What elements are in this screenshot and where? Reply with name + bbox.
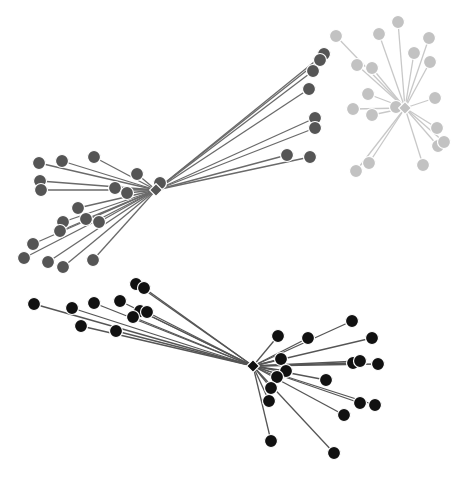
black-cluster-leaf-node[interactable] (263, 395, 276, 408)
light-gray-cluster-leaf-node[interactable] (417, 159, 430, 172)
light-gray-cluster-leaf-node[interactable] (330, 30, 343, 43)
dark-gray-cluster-leaf-node[interactable] (88, 151, 101, 164)
black-cluster-leaf-node[interactable] (369, 399, 382, 412)
dark-gray-cluster-leaf-node[interactable] (72, 202, 85, 215)
black-cluster-leaf-node[interactable] (302, 332, 315, 345)
nodes-layer (18, 16, 451, 460)
black-cluster-leaf-node[interactable] (141, 306, 154, 319)
light-gray-cluster-leaf-node[interactable] (347, 103, 360, 116)
black-cluster-leaf-node[interactable] (88, 297, 101, 310)
dark-gray-cluster-leaf-node[interactable] (281, 149, 294, 162)
black-cluster-leaf-node[interactable] (366, 332, 379, 345)
dark-gray-cluster-leaf-node[interactable] (93, 216, 106, 229)
black-cluster-leaf-node[interactable] (127, 311, 140, 324)
dark-gray-cluster-leaf-node[interactable] (35, 184, 48, 197)
dark-gray-cluster-leaf-node[interactable] (54, 225, 67, 238)
black-cluster-leaf-node[interactable] (28, 298, 41, 311)
network-diagram (0, 0, 464, 481)
light-gray-cluster-leaf-node[interactable] (350, 165, 363, 178)
black-cluster-leaf-node[interactable] (265, 382, 278, 395)
black-cluster-leaf-node[interactable] (272, 330, 285, 343)
light-gray-cluster-leaf-node[interactable] (438, 136, 451, 149)
black-cluster-edge (144, 288, 253, 366)
dark-gray-cluster-leaf-node[interactable] (121, 187, 134, 200)
black-cluster-leaf-node[interactable] (372, 358, 385, 371)
dark-gray-cluster-leaf-node[interactable] (309, 122, 322, 135)
dark-gray-cluster-leaf-node[interactable] (307, 65, 320, 78)
black-cluster-leaf-node[interactable] (346, 315, 359, 328)
black-cluster-edge (72, 308, 253, 366)
light-gray-cluster-leaf-node[interactable] (408, 47, 421, 60)
dark-gray-cluster-edge (156, 60, 320, 190)
dark-gray-cluster-leaf-node[interactable] (33, 157, 46, 170)
dark-gray-cluster-leaf-node[interactable] (131, 168, 144, 181)
dark-gray-cluster-leaf-node[interactable] (304, 151, 317, 164)
edges-layer (24, 22, 444, 453)
black-cluster-leaf-node[interactable] (138, 282, 151, 295)
light-gray-cluster-leaf-node[interactable] (373, 28, 386, 41)
dark-gray-cluster-leaf-node[interactable] (27, 238, 40, 251)
black-cluster-leaf-node[interactable] (338, 409, 351, 422)
black-cluster-leaf-node[interactable] (275, 353, 288, 366)
black-cluster-leaf-node[interactable] (354, 355, 367, 368)
black-cluster-leaf-node[interactable] (320, 374, 333, 387)
light-gray-cluster-leaf-node[interactable] (431, 122, 444, 135)
black-cluster-leaf-node[interactable] (66, 302, 79, 315)
black-cluster-edge (147, 312, 253, 366)
light-gray-cluster-leaf-node[interactable] (392, 16, 405, 29)
dark-gray-cluster-leaf-node[interactable] (87, 254, 100, 267)
black-cluster-leaf-node[interactable] (110, 325, 123, 338)
light-gray-cluster-leaf-node[interactable] (424, 56, 437, 69)
black-cluster-edge (116, 331, 253, 366)
black-cluster-leaf-node[interactable] (354, 397, 367, 410)
dark-gray-cluster-leaf-node[interactable] (109, 182, 122, 195)
black-cluster-edge (253, 321, 352, 366)
light-gray-cluster-leaf-node[interactable] (363, 157, 376, 170)
light-gray-cluster-leaf-node[interactable] (423, 32, 436, 45)
light-gray-cluster-leaf-node[interactable] (429, 92, 442, 105)
light-gray-cluster-leaf-node[interactable] (351, 59, 364, 72)
dark-gray-cluster-leaf-node[interactable] (80, 213, 93, 226)
dark-gray-cluster-leaf-node[interactable] (56, 155, 69, 168)
light-gray-cluster-leaf-node[interactable] (362, 88, 375, 101)
black-cluster-leaf-node[interactable] (328, 447, 341, 460)
black-cluster-leaf-node[interactable] (75, 320, 88, 333)
light-gray-cluster-leaf-node[interactable] (366, 109, 379, 122)
light-gray-cluster-leaf-node[interactable] (366, 62, 379, 75)
dark-gray-cluster-leaf-node[interactable] (18, 252, 31, 265)
dark-gray-cluster-leaf-node[interactable] (57, 261, 70, 274)
black-cluster-leaf-node[interactable] (265, 435, 278, 448)
dark-gray-cluster-leaf-node[interactable] (303, 83, 316, 96)
dark-gray-cluster-leaf-node[interactable] (42, 256, 55, 269)
dark-gray-cluster-edge (156, 71, 313, 190)
light-gray-cluster-edge (398, 22, 405, 108)
black-cluster-leaf-node[interactable] (114, 295, 127, 308)
